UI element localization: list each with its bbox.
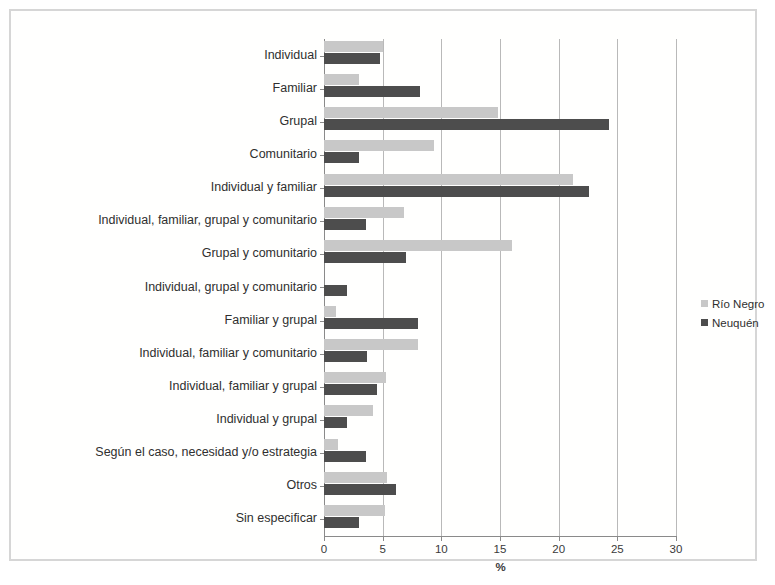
x-tick-25 (617, 536, 618, 541)
bar-rio-negro (324, 439, 338, 450)
bar-rio-negro (324, 207, 404, 218)
bar-group (324, 39, 676, 72)
x-tick-30 (676, 536, 677, 541)
category-label: Individual, familiar y comunitario (139, 346, 317, 360)
x-tick-10 (441, 536, 442, 541)
bar-rio-negro (324, 405, 373, 416)
legend-swatch-icon-rio-negro (701, 300, 708, 307)
chart-frame: IndividualFamiliarGrupalComunitarioIndiv… (9, 9, 757, 561)
x-tick-15 (500, 536, 501, 541)
category-label: Individual, grupal y comunitario (145, 280, 317, 294)
category-label: Familiar (273, 81, 317, 95)
category-label: Individual, familiar, grupal y comunitar… (98, 213, 317, 227)
x-axis-title: % (324, 561, 677, 573)
category-label: Otros (286, 478, 317, 492)
bar-group (324, 437, 676, 470)
bar-rio-negro (324, 306, 336, 317)
bar-neuquen (324, 451, 366, 462)
bar-neuquen (324, 186, 589, 197)
bar-group (324, 304, 676, 337)
bar-rio-negro (324, 174, 573, 185)
bar-neuquen (324, 285, 347, 296)
legend-item-rio-negro: Río Negro (701, 294, 775, 313)
x-tick-label-25: 25 (611, 543, 624, 555)
x-tick-label-5: 5 (379, 543, 385, 555)
legend-label-rio-negro: Río Negro (712, 298, 764, 310)
category-label: Individual y familiar (211, 180, 317, 194)
x-tick-20 (559, 536, 560, 541)
x-tick-label-0: 0 (321, 543, 327, 555)
legend-swatch-icon-neuquen (701, 319, 708, 326)
bar-neuquen (324, 417, 347, 428)
x-tick-5 (383, 536, 384, 541)
bar-group (324, 503, 676, 536)
bar-rio-negro (324, 505, 385, 516)
category-label: Grupal (279, 114, 317, 128)
bar-group (324, 105, 676, 138)
bar-neuquen (324, 252, 406, 263)
bar-rio-negro (324, 240, 512, 251)
bar-group (324, 337, 676, 370)
bar-group (324, 138, 676, 171)
x-tick-label-10: 10 (435, 543, 448, 555)
bar-rio-negro (324, 140, 434, 151)
category-label: Sin especificar (236, 511, 317, 525)
bar-neuquen (324, 152, 359, 163)
bar-rio-negro (324, 107, 498, 118)
bar-rio-negro (324, 339, 418, 350)
bar-neuquen (324, 517, 359, 528)
category-label: Grupal y comunitario (202, 246, 317, 260)
bar-group (324, 72, 676, 105)
bar-neuquen (324, 351, 367, 362)
category-axis-labels: IndividualFamiliarGrupalComunitarioIndiv… (11, 39, 317, 536)
bar-group (324, 271, 676, 304)
bar-rio-negro (324, 74, 359, 85)
bar-rio-negro (324, 41, 383, 52)
bar-group (324, 370, 676, 403)
bar-neuquen (324, 119, 609, 130)
gridline-30 (676, 39, 677, 536)
chart-legend: Río Negro Neuquén (701, 294, 775, 332)
bar-rows (324, 39, 676, 536)
x-tick-label-15: 15 (494, 543, 507, 555)
bar-neuquen (324, 384, 377, 395)
bar-group (324, 238, 676, 271)
x-tick-label-20: 20 (552, 543, 565, 555)
bar-neuquen (324, 318, 418, 329)
x-tick-0 (324, 536, 325, 541)
bar-group (324, 470, 676, 503)
bar-rio-negro (324, 372, 386, 383)
bar-group (324, 205, 676, 238)
bar-neuquen (324, 86, 420, 97)
category-label: Individual y grupal (216, 412, 317, 426)
bar-neuquen (324, 53, 380, 64)
category-label: Según el caso, necesidad y/o estrategia (95, 445, 317, 459)
category-label: Comunitario (250, 147, 317, 161)
x-tick-label-30: 30 (670, 543, 683, 555)
category-label: Individual, familiar y grupal (169, 379, 317, 393)
category-label: Individual (264, 48, 317, 62)
bar-neuquen (324, 484, 396, 495)
category-label: Familiar y grupal (225, 313, 317, 327)
bar-group (324, 403, 676, 436)
bar-rio-negro (324, 472, 387, 483)
bar-neuquen (324, 219, 366, 230)
plot-area (324, 39, 676, 536)
legend-label-neuquen: Neuquén (712, 317, 759, 329)
bar-group (324, 172, 676, 205)
legend-item-neuquen: Neuquén (701, 313, 775, 332)
